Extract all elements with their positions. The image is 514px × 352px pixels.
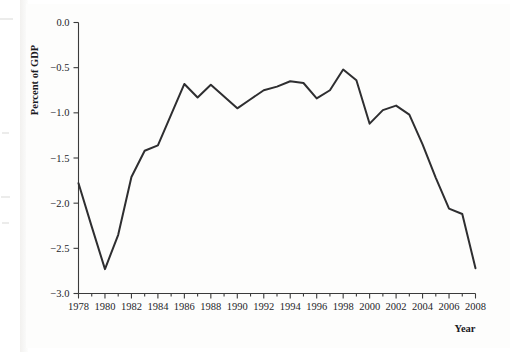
y-tick-label: −2.0	[50, 198, 69, 209]
y-tick-label: −1.5	[50, 153, 69, 164]
x-axis-title: Year	[455, 323, 476, 334]
x-tick-label: 1978	[68, 301, 89, 312]
x-tick-label: 2004	[412, 301, 434, 312]
y-tick-label: 0.0	[56, 17, 69, 28]
x-tick-label: 1990	[227, 301, 248, 312]
y-tick-label: −0.5	[50, 62, 69, 73]
data-series-line	[79, 69, 476, 269]
x-tick-label: 1986	[174, 301, 195, 312]
x-tick-label: 1980	[94, 301, 115, 312]
x-tick-label: 1988	[200, 301, 221, 312]
y-axis-ticks: 0.0−0.5−1.0−1.5−2.0−2.5−3.0	[50, 17, 78, 299]
x-tick-label: 1982	[121, 301, 142, 312]
x-tick-label: 1998	[333, 301, 354, 312]
x-tick-label: 2008	[465, 301, 486, 312]
x-tick-label: 1994	[280, 301, 302, 312]
x-tick-label: 2006	[439, 301, 460, 312]
line-chart: 0.0−0.5−1.0−1.5−2.0−2.5−3.0 197819801982…	[0, 0, 514, 352]
x-tick-label: 1996	[306, 301, 327, 312]
x-tick-label: 2000	[359, 301, 380, 312]
figure-page: 0.0−0.5−1.0−1.5−2.0−2.5−3.0 197819801982…	[0, 0, 514, 352]
y-tick-label: −1.0	[50, 107, 69, 118]
x-axis-ticks: 1978198019821984198619881990199219941996…	[68, 294, 486, 312]
y-tick-label: −2.5	[50, 243, 69, 254]
x-tick-label: 2002	[386, 301, 407, 312]
x-tick-label: 1992	[253, 301, 274, 312]
x-tick-label: 1984	[147, 301, 169, 312]
y-axis-title: Percent of GDP	[29, 44, 40, 115]
y-tick-label: −3.0	[50, 288, 69, 299]
